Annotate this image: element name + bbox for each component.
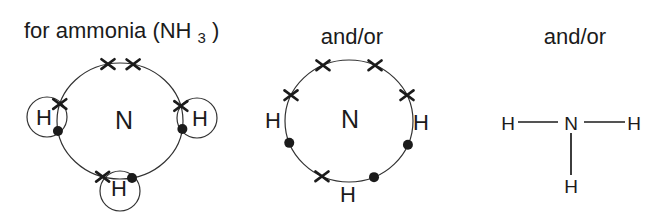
separate-dot-cross-diagram: HHHN bbox=[265, 60, 429, 207]
panel1-title-text: for ammonia (NH bbox=[24, 18, 191, 43]
electron-cross bbox=[315, 171, 328, 181]
electron-dot bbox=[53, 126, 63, 136]
structural-formula-diagram: HNHH bbox=[501, 113, 641, 197]
overlapping-dot-cross-diagram: HHHN bbox=[27, 59, 217, 211]
hydrogen-label: H bbox=[111, 176, 127, 201]
hydrogen-label: H bbox=[265, 108, 281, 133]
electron-cross bbox=[369, 60, 382, 70]
ammonia-bonding-figure: for ammonia (NH 3 ) and/or and/or HHHN H… bbox=[0, 0, 661, 219]
panel1-title-suffix: ) bbox=[212, 18, 219, 43]
nitrogen-label: N bbox=[341, 105, 359, 133]
hydrogen-label: H bbox=[192, 106, 208, 131]
electron-cross bbox=[174, 101, 187, 111]
nitrogen-label: N bbox=[115, 106, 133, 134]
hydrogen-label: H bbox=[413, 110, 429, 135]
hydrogen-label: H bbox=[564, 176, 578, 197]
electron-dot bbox=[403, 140, 413, 150]
electron-cross bbox=[316, 60, 329, 70]
electron-dot bbox=[284, 138, 294, 148]
hydrogen-label: H bbox=[36, 105, 52, 130]
electron-cross bbox=[284, 90, 297, 100]
electron-cross bbox=[101, 59, 114, 69]
hydrogen-label: H bbox=[340, 182, 356, 207]
panel3-title: and/or bbox=[544, 24, 606, 49]
electron-dot bbox=[369, 172, 379, 182]
hydrogen-label: H bbox=[627, 113, 641, 134]
electron-cross bbox=[53, 99, 66, 109]
hydrogen-label: H bbox=[501, 113, 515, 134]
electron-cross bbox=[401, 90, 414, 100]
panel1-title-subscript: 3 bbox=[198, 29, 206, 46]
panel2-title: and/or bbox=[321, 24, 383, 49]
electron-dot bbox=[177, 124, 187, 134]
nitrogen-label: N bbox=[564, 113, 578, 134]
electron-dot bbox=[127, 173, 137, 183]
electron-cross bbox=[127, 59, 140, 69]
panel1-title: for ammonia (NH 3 ) bbox=[24, 18, 219, 48]
